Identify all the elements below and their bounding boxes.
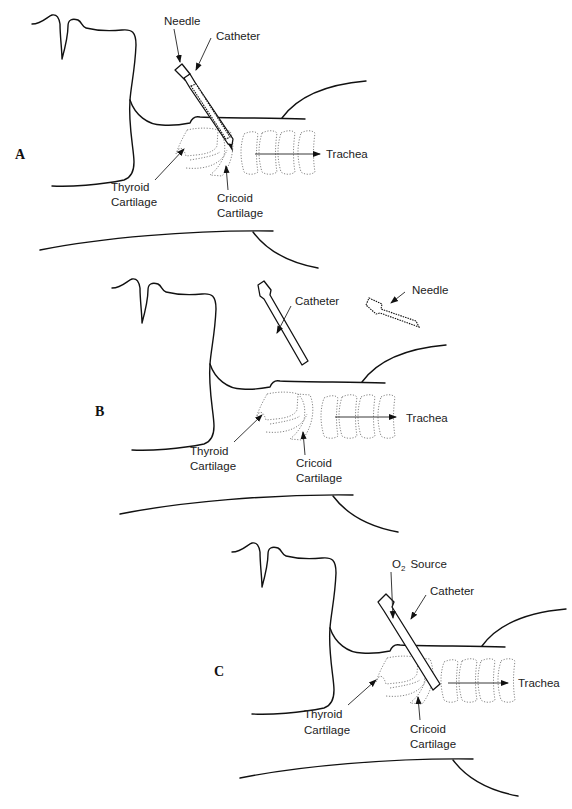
o2-source-label: O2Source	[392, 558, 447, 573]
catheter-label: Catheter	[430, 585, 474, 597]
catheter-label: Catheter	[216, 30, 260, 42]
panel-b	[112, 279, 446, 532]
panel-label-a: A	[15, 147, 26, 162]
cricoid-cartilage-label-line2: Cartilage	[410, 738, 456, 750]
catheter-label: Catheter	[295, 295, 339, 307]
thyroid-cartilage-label-line1: Thyroid	[111, 181, 149, 193]
cricoid-cartilage-label-line2: Cartilage	[217, 207, 263, 219]
needle-label: Needle	[412, 284, 448, 296]
panel-c	[232, 543, 566, 796]
thyroid-cartilage-label-line2: Cartilage	[111, 196, 157, 208]
cricoid-cartilage-label-line1: Cricoid	[296, 457, 332, 469]
catheter-with-o2	[378, 594, 440, 690]
cricoid-cartilage-label-line1: Cricoid	[217, 192, 253, 204]
cricoid-cartilage-label-line2: Cartilage	[296, 472, 342, 484]
panel-label-c: C	[214, 664, 224, 679]
needle-catheter-assembly	[175, 64, 233, 152]
thyroid-cartilage-label-line1: Thyroid	[190, 445, 228, 457]
panel-label-b: B	[95, 404, 104, 419]
thyroid-cartilage-label-line1: Thyroid	[304, 708, 342, 720]
trachea-label: Trachea	[326, 148, 368, 160]
trachea-label: Trachea	[518, 677, 560, 689]
cricoid-cartilage-label-line1: Cricoid	[410, 723, 446, 735]
thyroid-cartilage-label-line2: Cartilage	[304, 724, 350, 736]
needle-label: Needle	[164, 15, 200, 27]
thyroid-cartilage-label-line2: Cartilage	[190, 460, 236, 472]
catheter	[258, 281, 308, 365]
trachea-label: Trachea	[406, 412, 448, 424]
cricothyroidotomy-diagram: A Needle Catheter Trachea Thyroid Cartil…	[0, 0, 572, 809]
panel-a: A Needle Catheter Trachea Thyroid Cartil…	[15, 15, 368, 268]
